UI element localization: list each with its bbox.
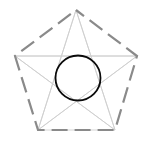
figure-canvas: [0, 0, 151, 143]
geometric-figure-svg: [0, 0, 151, 143]
circle-layer: [56, 56, 101, 101]
star-spoke-right-to-bottom-left: [38, 56, 137, 130]
center-circle: [56, 56, 101, 101]
star-spoke-left-to-bottom-right: [15, 56, 115, 130]
star-spoke-top-to-bottom-right: [76, 10, 115, 130]
